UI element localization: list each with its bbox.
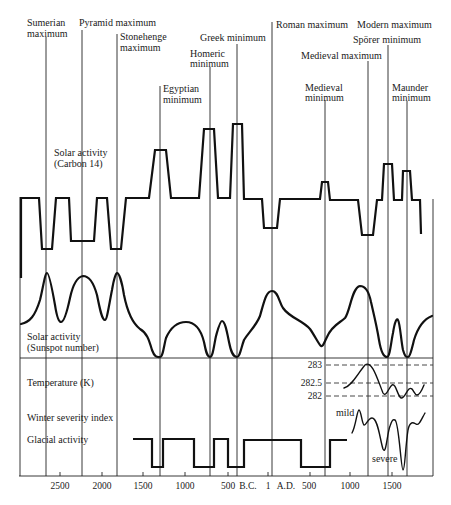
event-labels: Sumerianmaximum Pyramid maximum Stonehen…	[27, 17, 432, 105]
mild-annotation: mild	[336, 407, 354, 418]
solar-activity-diagram: Sumerianmaximum Pyramid maximum Stonehen…	[0, 0, 451, 505]
tick-label-bc: B.C.	[239, 481, 256, 491]
tick-label-1500ad: 1500	[383, 481, 402, 491]
label-egyptian: Egyptianminimum	[163, 83, 202, 105]
label-modern: Modern maximum	[357, 19, 432, 30]
tick-label-1000ad: 1000	[341, 481, 360, 491]
glacial-label: Glacial activity	[27, 434, 88, 445]
tick-label-1: 1	[266, 481, 271, 491]
label-sumerian: Sumerianmaximum	[27, 17, 68, 39]
temperature-series	[344, 364, 424, 398]
temp-tick-282.5: 282.5	[301, 378, 323, 388]
tick-label-ad: A.D.	[277, 481, 295, 491]
label-sporer: Spörer minimum	[353, 34, 421, 45]
severe-annotation: severe	[372, 453, 398, 464]
x-axis: 2500 2000 1500 1000 500 B.C. 1 A.D. 500 …	[19, 472, 433, 491]
label-roman: Roman maximum	[276, 19, 348, 30]
tick-label-500bc: 500	[221, 481, 236, 491]
label-maunder: Maunderminimum	[392, 82, 431, 103]
label-greek: Greek minimum	[200, 32, 266, 43]
tick-label-2000: 2000	[93, 481, 112, 491]
winter-label: Winter severity index	[27, 412, 113, 423]
event-lines	[20, 22, 433, 476]
tick-label-2500: 2500	[51, 481, 70, 491]
sunspot-label: Solar activity(Sunspot number)	[27, 331, 99, 354]
temp-tick-283: 283	[308, 360, 323, 370]
label-medieval-max: Medieval maximum	[301, 50, 382, 61]
tick-label-1000bc: 1000	[176, 481, 195, 491]
temp-tick-282: 282	[308, 391, 323, 401]
temperature-label: Temperature (K)	[27, 377, 94, 389]
label-pyramid: Pyramid maximum	[79, 17, 156, 28]
carbon14-label: Solar activity(Carbon 14)	[54, 147, 108, 170]
tick-label-1500bc: 1500	[134, 481, 153, 491]
glacial-activity-series	[133, 439, 347, 467]
label-stonehenge: Stonehengemaximum	[120, 31, 167, 53]
label-medieval-min: Medievalminimum	[305, 82, 344, 103]
tick-label-500ad: 500	[302, 481, 317, 491]
label-homeric: Homericminimum	[190, 48, 229, 69]
